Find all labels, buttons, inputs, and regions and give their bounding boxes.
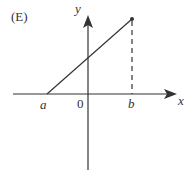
graph-figure: (E) y x a 0 b xyxy=(0,0,187,172)
endpoint-dot xyxy=(130,17,134,21)
y-axis-label: y xyxy=(75,2,81,15)
panel-label: (E) xyxy=(11,10,28,23)
line-segment xyxy=(47,19,132,94)
tick-label-a: a xyxy=(40,98,47,111)
x-axis-label: x xyxy=(178,94,184,107)
tick-label-origin: 0 xyxy=(77,97,84,110)
graph-canvas xyxy=(0,0,187,172)
tick-label-b: b xyxy=(128,97,135,110)
